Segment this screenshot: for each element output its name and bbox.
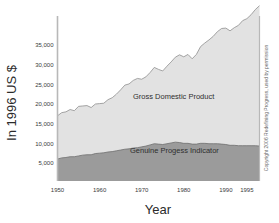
copyright-notice: Copyright 2006 Redefining Progress, used… xyxy=(263,45,269,172)
x-tick-label: 1995 xyxy=(240,187,254,193)
y-tick-label: 5,000 xyxy=(38,160,54,166)
y-tick-label: 35,000 xyxy=(35,42,54,48)
area-chart: 5,00010,00015,00020,00025,00030,00035,00… xyxy=(0,0,279,223)
x-tick-label: 1970 xyxy=(135,187,149,193)
y-axis-title: In 1996 US $ xyxy=(4,64,19,141)
x-tick-label: 1980 xyxy=(177,187,191,193)
chart-container: 5,00010,00015,00020,00025,00030,00035,00… xyxy=(0,0,279,223)
x-axis-title: Year xyxy=(145,202,172,217)
y-tick-label: 25,000 xyxy=(35,82,54,88)
y-tick-label: 30,000 xyxy=(35,62,54,68)
gpi-series-label: Genuine Progess Indicator xyxy=(130,146,219,155)
x-tick-label: 1960 xyxy=(93,187,107,193)
y-tick-label: 15,000 xyxy=(35,121,54,127)
x-tick-label: 1950 xyxy=(51,187,65,193)
x-tick-label: 1990 xyxy=(219,187,233,193)
y-tick-label: 20,000 xyxy=(35,101,54,107)
y-tick-label: 10,000 xyxy=(35,141,54,147)
gdp-series-label: Gross Domestic Product xyxy=(133,92,215,101)
